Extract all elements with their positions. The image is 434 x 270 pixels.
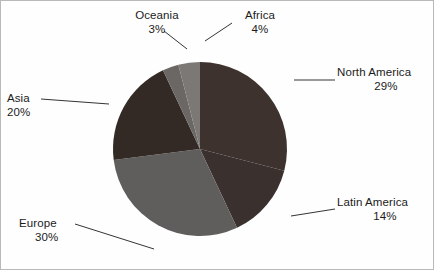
pie-chart-figure: Oceania 3% Africa 4% North America 29% L… bbox=[0, 0, 434, 270]
leader-line-africa bbox=[205, 23, 232, 41]
pie-slice-group bbox=[113, 62, 287, 236]
pie-label-europe-name: Europe bbox=[19, 217, 81, 231]
pie-label-asia-value: 20% bbox=[7, 106, 63, 120]
pie-label-europe: Europe 30% bbox=[19, 217, 81, 244]
pie-label-oceania-value: 3% bbox=[121, 23, 193, 37]
pie-label-latin-america-value: 14% bbox=[337, 210, 433, 224]
pie-label-africa-name: Africa bbox=[229, 9, 291, 23]
pie-label-north-america: North America 29% bbox=[337, 66, 434, 93]
pie-label-africa: Africa 4% bbox=[229, 9, 291, 36]
pie-label-africa-value: 4% bbox=[229, 23, 291, 37]
pie-label-oceania-name: Oceania bbox=[121, 9, 193, 23]
leader-line-europe bbox=[75, 224, 154, 249]
pie-label-north-america-value: 29% bbox=[337, 80, 434, 94]
pie-label-latin-america-name: Latin America bbox=[337, 196, 433, 210]
pie-label-asia: Asia 20% bbox=[7, 92, 63, 119]
pie-label-asia-name: Asia bbox=[7, 92, 63, 106]
pie-label-latin-america: Latin America 14% bbox=[337, 196, 433, 223]
pie-label-oceania: Oceania 3% bbox=[121, 9, 193, 36]
pie-label-europe-value: 30% bbox=[19, 231, 81, 245]
leader-line-latin-america bbox=[291, 209, 335, 216]
pie-label-north-america-name: North America bbox=[337, 66, 434, 80]
